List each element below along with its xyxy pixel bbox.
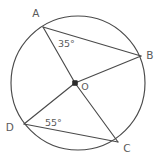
- angle-label-55-degrees: 55°: [45, 117, 62, 128]
- center-label-o: O: [81, 81, 88, 92]
- circle-geometry-diagram: A B C D O 35° 55°: [0, 0, 166, 162]
- angle-label-35-degrees: 35°: [58, 38, 75, 49]
- geometry-canvas: A B C D O 35° 55°: [0, 0, 166, 162]
- vertex-label-d: D: [6, 121, 14, 133]
- vertex-label-a: A: [32, 7, 40, 19]
- vertex-label-b: B: [146, 49, 153, 61]
- segment-dc-line: [24, 124, 118, 142]
- vertex-label-c: C: [123, 142, 131, 154]
- segment-ob-line: [75, 56, 141, 83]
- circle-outline: [11, 16, 145, 150]
- center-point-o-dot: [73, 81, 78, 86]
